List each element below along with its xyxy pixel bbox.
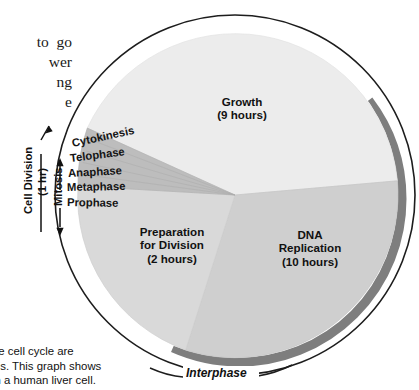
phase-label-metaphase: Metaphase xyxy=(67,180,126,193)
label-preparation-for-division: Preparation for Division (2 hours) xyxy=(112,225,232,265)
label-dna-replication: DNA Replication (10 hours) xyxy=(255,228,365,268)
label-interphase: Interphase xyxy=(186,366,247,380)
label-growth-text: Growth (9 hours) xyxy=(217,95,267,121)
mitosis-arrow-down-head xyxy=(56,228,63,236)
label-dna-replication-text: DNA Replication (10 hours) xyxy=(279,228,342,268)
phase-label-prophase: Prophase xyxy=(67,196,119,209)
side-label-cell-division: Cell Division xyxy=(22,147,34,214)
label-growth: Growth (9 hours) xyxy=(182,95,302,122)
diagram-stage: to go wer ng e xyxy=(0,0,419,390)
label-preparation-text: Preparation for Division (2 hours) xyxy=(140,225,204,265)
side-label-mitosis: Mitosis xyxy=(52,167,64,206)
side-label-cell-division-time: (1 hr) xyxy=(36,168,48,196)
figure-caption: he cell cycle are sis. This graph shows … xyxy=(0,344,182,388)
